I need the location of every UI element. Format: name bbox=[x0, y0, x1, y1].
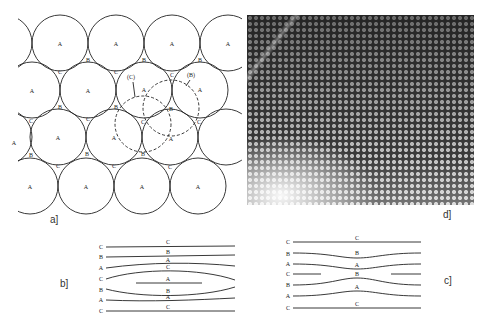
panel-d-label: d] bbox=[443, 209, 452, 220]
svg-text:A: A bbox=[286, 261, 291, 267]
svg-text:C: C bbox=[86, 116, 90, 122]
svg-text:B: B bbox=[86, 57, 90, 63]
svg-text:A: A bbox=[86, 88, 91, 94]
svg-text:A: A bbox=[12, 140, 17, 146]
svg-text:(C): (C) bbox=[127, 74, 135, 81]
svg-text:C: C bbox=[99, 276, 103, 282]
svg-text:B: B bbox=[114, 104, 118, 110]
svg-text:B: B bbox=[169, 106, 173, 112]
svg-text:B: B bbox=[166, 249, 170, 255]
stacking-fault-band bbox=[247, 15, 313, 205]
svg-text:(B): (B) bbox=[187, 72, 195, 79]
svg-text:C: C bbox=[286, 271, 290, 277]
svg-text:A: A bbox=[166, 257, 171, 263]
panel-c-label: c] bbox=[444, 275, 452, 286]
svg-text:B: B bbox=[286, 251, 290, 257]
svg-text:C: C bbox=[168, 164, 172, 170]
svg-text:C: C bbox=[166, 304, 170, 310]
svg-text:B: B bbox=[198, 57, 202, 63]
svg-text:C: C bbox=[197, 119, 201, 125]
svg-text:A: A bbox=[226, 41, 231, 47]
svg-text:B: B bbox=[355, 250, 359, 256]
svg-text:A: A bbox=[142, 87, 147, 93]
svg-text:A: A bbox=[198, 87, 203, 93]
svg-text:A: A bbox=[56, 135, 61, 141]
svg-text:C: C bbox=[56, 163, 60, 169]
svg-text:A: A bbox=[30, 88, 35, 94]
svg-text:C: C bbox=[114, 69, 118, 75]
svg-text:C: C bbox=[29, 118, 33, 124]
svg-text:C: C bbox=[286, 305, 290, 311]
svg-text:C: C bbox=[58, 69, 62, 75]
panel-b-diagram bbox=[106, 246, 235, 311]
svg-text:B: B bbox=[29, 152, 33, 158]
svg-text:A: A bbox=[99, 297, 104, 303]
svg-text:B: B bbox=[85, 151, 89, 157]
svg-text:C: C bbox=[99, 244, 103, 250]
panel-d-micrograph bbox=[247, 15, 474, 205]
svg-text:C: C bbox=[170, 72, 174, 78]
panel-a-label: a] bbox=[50, 214, 59, 225]
svg-text:C: C bbox=[286, 239, 290, 245]
svg-text:B: B bbox=[141, 151, 145, 157]
svg-text:C: C bbox=[99, 308, 103, 314]
svg-text:A: A bbox=[169, 136, 174, 142]
svg-text:B: B bbox=[99, 287, 103, 293]
svg-text:A: A bbox=[114, 41, 119, 47]
svg-text:C: C bbox=[166, 239, 170, 245]
svg-text:A: A bbox=[28, 184, 33, 190]
svg-text:C: C bbox=[141, 119, 145, 125]
svg-text:A: A bbox=[84, 184, 89, 190]
svg-text:B: B bbox=[99, 254, 103, 260]
panel-b-label: b] bbox=[60, 278, 69, 289]
svg-text:A: A bbox=[286, 293, 291, 299]
svg-text:A: A bbox=[166, 276, 171, 282]
svg-text:C: C bbox=[355, 301, 359, 307]
svg-text:A: A bbox=[355, 262, 360, 268]
svg-text:A: A bbox=[99, 265, 104, 271]
svg-text:A: A bbox=[140, 184, 145, 190]
svg-text:A: A bbox=[166, 294, 171, 300]
svg-text:A: A bbox=[112, 135, 117, 141]
figure: AAAA AA AA AAAA AAAA BBB BBB BBB CCC CCC… bbox=[0, 0, 485, 327]
svg-text:A: A bbox=[170, 41, 175, 47]
svg-text:B: B bbox=[355, 271, 359, 277]
svg-text:A: A bbox=[196, 184, 201, 190]
svg-text:C: C bbox=[112, 163, 116, 169]
svg-text:A: A bbox=[58, 41, 63, 47]
svg-text:C: C bbox=[166, 264, 170, 270]
svg-text:B: B bbox=[58, 104, 62, 110]
svg-text:C: C bbox=[355, 235, 359, 241]
svg-text:B: B bbox=[286, 282, 290, 288]
svg-text:B: B bbox=[142, 57, 146, 63]
svg-text:A: A bbox=[355, 284, 360, 290]
